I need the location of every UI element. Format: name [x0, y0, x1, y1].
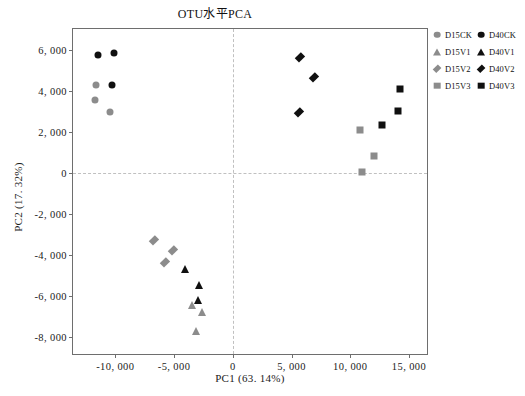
- legend-item-d40v2[interactable]: D40V2: [476, 64, 524, 74]
- pca-chart-root: OTU水平PCA -8, 000-6, 000-4, 000-2, 00002,…: [0, 0, 525, 396]
- x-tick: [174, 354, 175, 358]
- y-tick: [69, 173, 73, 174]
- legend-item-d40ck[interactable]: D40CK: [476, 30, 524, 40]
- y-tick-label: 2, 000: [38, 126, 67, 137]
- y-tick: [69, 214, 73, 215]
- data-point-d40ck: [111, 50, 118, 57]
- circle-icon: [476, 30, 486, 40]
- legend-label: D15CK: [445, 30, 472, 40]
- triangle-marker: [477, 48, 485, 55]
- data-point-d15ck: [107, 108, 114, 115]
- diamond-icon: [432, 64, 442, 74]
- y-tick-label: 6, 000: [38, 44, 67, 55]
- legend-item-d40v3[interactable]: D40V3: [476, 81, 524, 91]
- legend-label: D40V1: [489, 47, 515, 57]
- legend-label: D40V3: [489, 81, 515, 91]
- legend-label: D40CK: [489, 30, 516, 40]
- diamond-marker: [432, 64, 441, 73]
- reference-line-x0: [233, 29, 234, 354]
- circle-marker: [434, 31, 441, 38]
- legend-label: D15V3: [445, 81, 471, 91]
- data-point-d15v3: [370, 153, 377, 160]
- legend-item-d15v1[interactable]: D15V1: [432, 47, 476, 57]
- legend-label: D15V2: [445, 64, 471, 74]
- x-tick: [233, 354, 234, 358]
- x-tick: [350, 354, 351, 358]
- triangle-marker: [433, 48, 441, 55]
- data-point-d15v3: [356, 126, 363, 133]
- x-tick-label: 10, 000: [333, 361, 367, 372]
- data-point-d40ck: [109, 81, 116, 88]
- y-tick-label: 0: [61, 167, 67, 178]
- y-tick: [69, 50, 73, 51]
- triangle-icon: [476, 47, 486, 57]
- legend: D15CKD40CKD15V1D40V1D15V2D40V2D15V3D40V3: [432, 26, 524, 94]
- y-axis-title: PC2 (17. 32%): [12, 117, 24, 277]
- x-tick-label: 0: [230, 361, 236, 372]
- legend-item-d40v1[interactable]: D40V1: [476, 47, 524, 57]
- reference-line-y0: [73, 173, 427, 174]
- data-point-d15v2: [160, 257, 170, 267]
- data-point-d40v1: [194, 296, 202, 304]
- diamond-marker: [476, 64, 485, 73]
- legend-item-d15v3[interactable]: D15V3: [432, 81, 476, 91]
- y-tick: [69, 296, 73, 297]
- data-point-d15ck: [93, 81, 100, 88]
- triangle-icon: [432, 47, 442, 57]
- square-icon: [432, 81, 442, 91]
- data-point-d15v1: [198, 308, 206, 316]
- legend-item-d15v2[interactable]: D15V2: [432, 64, 476, 74]
- x-tick-label: 5, 000: [277, 361, 306, 372]
- data-point-d40v2: [295, 52, 305, 62]
- data-point-d15v2: [169, 245, 179, 255]
- data-point-d15v1: [192, 327, 200, 335]
- data-point-d40v3: [395, 107, 402, 114]
- y-tick: [69, 132, 73, 133]
- data-point-d15v3: [359, 169, 366, 176]
- x-tick-label: -10, 000: [96, 361, 134, 372]
- data-point-d15v2: [149, 235, 159, 245]
- data-point-d40ck: [94, 51, 101, 58]
- data-point-d40v1: [181, 265, 189, 273]
- data-point-d40v2: [309, 72, 319, 82]
- legend-label: D40V2: [489, 64, 515, 74]
- page-title: OTU水平PCA: [0, 4, 430, 22]
- data-point-d40v3: [379, 121, 386, 128]
- legend-label: D15V1: [445, 47, 471, 57]
- x-tick: [292, 354, 293, 358]
- x-tick-label: 15, 000: [392, 361, 426, 372]
- diamond-icon: [476, 64, 486, 74]
- x-axis-title: PC1 (63. 14%): [72, 372, 428, 384]
- data-point-d15ck: [92, 96, 99, 103]
- circle-marker: [478, 31, 485, 38]
- plot-canvas: [73, 29, 427, 354]
- y-tick: [69, 255, 73, 256]
- data-point-d40v2: [294, 108, 304, 118]
- square-marker: [478, 82, 485, 89]
- square-icon: [476, 81, 486, 91]
- data-point-d40v1: [195, 281, 203, 289]
- y-tick-label: -8, 000: [34, 332, 67, 343]
- legend-item-d15ck[interactable]: D15CK: [432, 30, 476, 40]
- x-tick: [115, 354, 116, 358]
- y-tick: [69, 337, 73, 338]
- data-point-d40v3: [396, 86, 403, 93]
- x-tick: [409, 354, 410, 358]
- x-tick-label: -5, 000: [158, 361, 191, 372]
- y-tick-label: -6, 000: [34, 291, 67, 302]
- circle-icon: [432, 30, 442, 40]
- y-tick-label: 4, 000: [38, 85, 67, 96]
- y-tick-label: -4, 000: [34, 250, 67, 261]
- square-marker: [434, 82, 441, 89]
- y-tick: [69, 91, 73, 92]
- y-tick-label: -2, 000: [34, 209, 67, 220]
- plot-area: -8, 000-6, 000-4, 000-2, 00002, 0004, 00…: [72, 28, 428, 355]
